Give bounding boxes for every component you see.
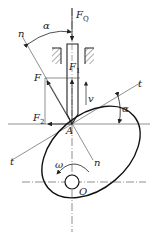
guide-block-right <box>85 48 94 64</box>
alpha-arc-top <box>28 31 71 44</box>
label-alpha-top: α <box>43 21 50 31</box>
label-n-top: n <box>18 29 24 39</box>
follower-rod <box>67 44 78 124</box>
label-t-right: t <box>138 79 142 89</box>
cam-shaft-circle <box>65 175 79 189</box>
label-f1: F1 <box>69 62 80 75</box>
label-n-bottom: n <box>94 158 100 168</box>
label-a: A <box>66 126 73 136</box>
cam-profile <box>24 88 157 217</box>
label-f: F <box>34 73 41 83</box>
label-f2: F2 <box>33 113 44 126</box>
guide-block-left <box>52 48 61 64</box>
label-t-left: t <box>10 157 14 167</box>
label-o: O <box>79 187 87 197</box>
alpha-arc-right <box>118 96 120 123</box>
label-fq: FQ <box>76 10 89 23</box>
cam-follower-diagram: FQ α n F F1 v F2 t α A t n ω O <box>0 0 161 234</box>
label-omega: ω <box>55 160 63 170</box>
label-v: v <box>88 94 94 104</box>
label-alpha-right: α <box>122 104 129 114</box>
